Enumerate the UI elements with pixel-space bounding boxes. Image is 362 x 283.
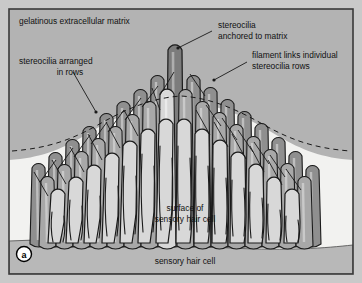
stereocilium xyxy=(138,129,155,243)
leader-dot-anchored xyxy=(176,46,179,49)
label-filament-line1: filament links individual xyxy=(252,50,338,60)
stereocilia-diagram: gelatinous extracellular matrix stereoci… xyxy=(0,0,362,283)
label-surface-line1: surface of xyxy=(167,203,204,213)
stereocilium xyxy=(102,153,119,243)
label-sensory-hair-cell: sensory hair cell xyxy=(155,256,216,266)
stereocilium xyxy=(66,177,83,243)
stereocilium xyxy=(84,165,101,243)
panel-letter-badge: a xyxy=(17,247,32,262)
stereocilium xyxy=(156,119,173,243)
figure-container: gelatinous extracellular matrix stereoci… xyxy=(0,0,362,283)
label-surface-line2: sensory hair cell xyxy=(155,214,216,224)
leader-dot-filament xyxy=(212,78,215,81)
label-anchored-line1: stereocilia xyxy=(218,20,256,30)
label-filament-line2: stereocilia rows xyxy=(252,61,310,71)
leader-dot-rows xyxy=(94,110,97,113)
label-gelatinous-matrix: gelatinous extracellular matrix xyxy=(19,16,131,26)
label-anchored-line2: anchored to matrix xyxy=(218,31,288,41)
stereocilium xyxy=(120,141,137,243)
label-stereocilia-rows-line2: in rows xyxy=(57,67,84,77)
figure-panel: gelatinous extracellular matrix stereoci… xyxy=(9,9,353,274)
label-stereocilia-rows-line1: stereocilia arranged xyxy=(19,56,93,66)
